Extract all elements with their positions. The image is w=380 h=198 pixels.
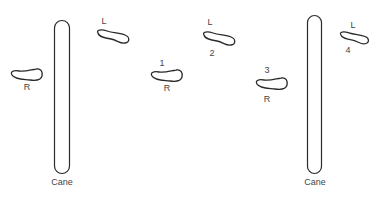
step-2-side-label: L xyxy=(207,18,212,27)
cane-right-label: Cane xyxy=(304,178,326,187)
step-1-number: 1 xyxy=(159,59,164,68)
step-3-number: 3 xyxy=(264,66,269,75)
gait-diagram xyxy=(0,0,380,198)
step-4-side-label: L xyxy=(350,21,355,30)
step-3-side-label: R xyxy=(264,95,271,104)
foot-step-3-right xyxy=(256,78,287,90)
foot-step-2-left xyxy=(204,32,235,45)
step-2-number: 2 xyxy=(209,49,214,58)
step-4-number: 4 xyxy=(345,46,350,55)
step-1-side-label: R xyxy=(164,84,171,93)
foot-step-4-left xyxy=(340,32,368,44)
cane-right xyxy=(308,16,322,174)
foot-left-start xyxy=(98,30,129,43)
foot-right-start xyxy=(11,69,42,81)
foot-left-start-side-label: L xyxy=(101,17,106,26)
cane-left xyxy=(55,21,70,174)
cane-left-label: Cane xyxy=(51,178,73,187)
foot-step-1-right xyxy=(151,70,182,82)
foot-right-start-side-label: R xyxy=(24,83,31,92)
